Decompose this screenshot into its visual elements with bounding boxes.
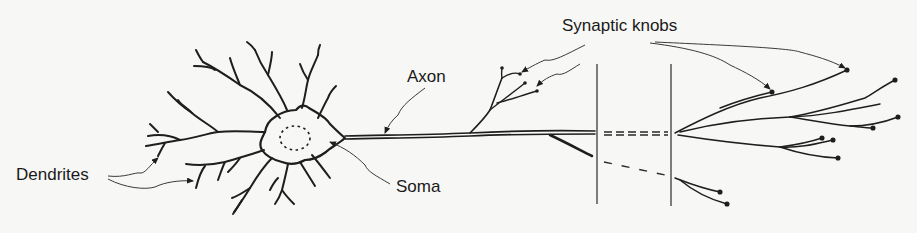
label-dendrites: Dendrites — [16, 166, 89, 183]
axon-break — [597, 64, 671, 206]
leader-lines — [108, 42, 845, 188]
dendrites — [146, 42, 336, 214]
label-axon: Axon — [407, 68, 446, 85]
label-synaptic-knobs: Synaptic knobs — [562, 17, 677, 34]
label-soma: Soma — [396, 178, 440, 195]
axon-terminals — [675, 68, 900, 206]
neuron-diagram — [0, 0, 917, 233]
axon — [345, 66, 595, 156]
nucleus — [280, 126, 310, 150]
soma — [260, 106, 345, 164]
